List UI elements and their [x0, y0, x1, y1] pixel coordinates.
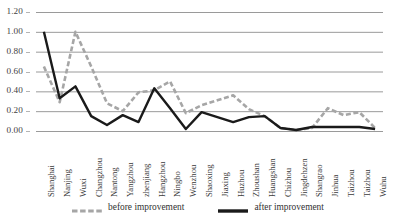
legend-item-after[interactable]: after improvement — [218, 202, 324, 212]
x-axis-tick-label: Changzhou — [95, 158, 104, 197]
x-axis-tick-label: Chizhou — [284, 168, 293, 197]
x-axis-tick-label: zhenjiang — [142, 164, 151, 197]
y-axis: 1.201.000.800.600.400.200.00 — [0, 0, 30, 145]
y-axis-tick-mark — [26, 52, 30, 53]
y-axis-tick-mark — [26, 72, 30, 73]
x-axis-tick-label: Shaoxing — [205, 165, 214, 197]
x-axis-tick-label: Huangshan — [268, 158, 277, 197]
x-axis-tick-label: Taizhou — [363, 169, 372, 197]
x-axis-tick-label: Wuhu — [379, 176, 388, 197]
y-axis-tick-mark — [26, 12, 30, 13]
x-axis-tick-label: Nantong — [110, 167, 119, 197]
line-chart: 1.201.000.800.600.400.200.00 ShanghaiNan… — [0, 0, 396, 219]
series-line-after — [44, 32, 375, 130]
x-axis-tick-label: Zhoushan — [252, 163, 261, 197]
legend-label-after: after improvement — [254, 202, 324, 212]
y-axis-tick-mark — [26, 131, 30, 132]
legend-swatch-after-solid — [218, 202, 248, 212]
x-axis-tick-label: Huzhou — [237, 170, 246, 197]
plot-svg — [36, 0, 383, 145]
legend-item-before[interactable]: before improvement — [72, 202, 184, 212]
x-axis-tick-label: Jiaxing — [221, 172, 230, 197]
y-axis-tick-mark — [26, 32, 30, 33]
legend-label-before: before improvement — [108, 202, 184, 212]
x-axis: ShanghaiNanjingWuxiChangzhouNantongYangz… — [36, 131, 383, 201]
chart-legend: before improvement after improvement — [0, 198, 396, 216]
x-axis-tick-label: Jingdehzen — [300, 158, 309, 197]
x-axis-tick-label: Hangzhou — [158, 162, 167, 197]
x-axis-tick-label: Wuxi — [79, 178, 88, 197]
x-axis-tick-label: Shanghai — [47, 165, 56, 197]
x-axis-tick-label: Shangrao — [315, 165, 324, 197]
x-axis-tick-label: Nanjing — [63, 169, 72, 197]
y-axis-tick-mark — [26, 91, 30, 92]
x-axis-tick-label: Wenzhou — [189, 165, 198, 197]
x-axis-tick-label: Jinhua — [331, 175, 340, 197]
x-axis-tick-label: Ningbo — [173, 171, 182, 197]
x-axis-tick-label: Taizhou — [347, 169, 356, 197]
y-axis-tick-mark — [26, 111, 30, 112]
x-axis-tick-label: Yangzhou — [126, 163, 135, 197]
legend-swatch-before-dashed — [72, 202, 102, 212]
plot-area — [36, 0, 383, 145]
